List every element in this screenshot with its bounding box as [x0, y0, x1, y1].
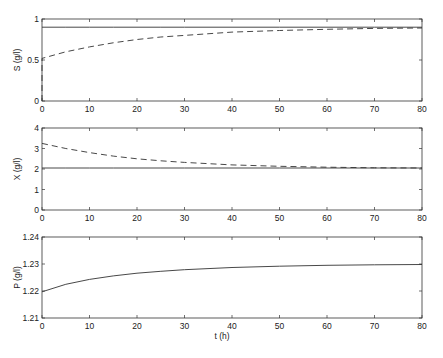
y-axis-label: S (g/l): [12, 48, 22, 71]
series-dashed-line: [42, 28, 422, 101]
x-tick-label: 0: [40, 213, 45, 223]
x-tick-label: 30: [180, 104, 190, 114]
x-tick-label: 40: [227, 321, 237, 331]
y-tick-label: 2: [34, 164, 39, 174]
y-tick-label: 0: [34, 205, 39, 215]
series-solid-line: [42, 265, 422, 292]
x-tick-label: 40: [227, 213, 237, 223]
x-tick-label: 50: [275, 213, 285, 223]
x-tick-label: 30: [180, 321, 190, 331]
x-tick-label: 20: [132, 213, 142, 223]
y-tick-label: 1.21: [22, 313, 39, 323]
x-tick-label: 60: [322, 213, 332, 223]
x-tick-label: 60: [322, 104, 332, 114]
x-tick-label: 80: [417, 104, 427, 114]
y-axis-label: P (g/l): [12, 266, 22, 289]
x-tick-label: 20: [132, 104, 142, 114]
x-tick-label: 50: [275, 321, 285, 331]
x-tick-label: 10: [85, 104, 95, 114]
x-tick-label: 60: [322, 321, 332, 331]
y-tick-label: 1.23: [22, 259, 39, 269]
y-axis-label: X (g/l): [12, 157, 22, 180]
x-tick-label: 30: [180, 213, 190, 223]
y-tick-label: 1.24: [22, 232, 39, 242]
subplot-2: 0102030405060708001234X (g/l): [12, 123, 427, 223]
x-tick-label: 0: [40, 321, 45, 331]
axes-frame: [42, 19, 422, 101]
x-tick-label: 80: [417, 321, 427, 331]
y-tick-label: 1: [34, 185, 39, 195]
x-tick-label: 40: [227, 104, 237, 114]
y-tick-label: 1.22: [22, 286, 39, 296]
x-tick-label: 0: [40, 104, 45, 114]
y-tick-label: 0: [34, 96, 39, 106]
x-tick-label: 70: [370, 321, 380, 331]
x-tick-label: 70: [370, 213, 380, 223]
y-tick-label: 3: [34, 144, 39, 154]
x-tick-label: 20: [132, 321, 142, 331]
x-tick-label: 10: [85, 321, 95, 331]
chart-figure: 0102030405060708000.51S (g/l)01020304050…: [0, 0, 443, 358]
y-tick-label: 1: [34, 14, 39, 24]
subplot-1: 0102030405060708000.51S (g/l): [12, 14, 427, 114]
series-dashed-line: [42, 143, 422, 168]
x-tick-label: 50: [275, 104, 285, 114]
x-tick-label: 10: [85, 213, 95, 223]
x-tick-label: 70: [370, 104, 380, 114]
y-tick-label: 4: [34, 123, 39, 133]
axes-frame: [42, 237, 422, 318]
y-tick-label: 0.5: [27, 55, 39, 65]
subplot-3: 010203040506070801.211.221.231.24P (g/l)…: [12, 232, 427, 341]
x-tick-label: 80: [417, 213, 427, 223]
x-axis-label: t (h): [214, 331, 229, 341]
axes-frame: [42, 128, 422, 210]
